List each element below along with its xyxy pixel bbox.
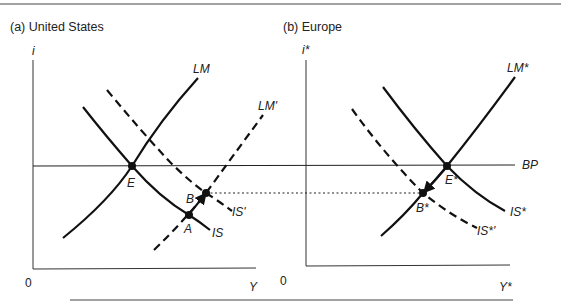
is-label: IS — [212, 227, 223, 239]
point-b — [202, 189, 210, 197]
origin-label-a: 0 — [25, 277, 32, 289]
lm-prime-label: LM' — [258, 100, 277, 112]
bp-line — [33, 165, 515, 166]
point-b-star — [419, 189, 427, 197]
is-prime-curve — [107, 90, 232, 211]
panel-b-title: (b) Europe — [283, 20, 342, 34]
origin-label-b: 0 — [280, 275, 287, 287]
point-e — [128, 162, 136, 170]
x-axis-label-a: Y — [249, 281, 257, 293]
is-lm-bp-figure: (a) United States (b) Europe i 0 Y LM LM… — [0, 0, 561, 305]
point-a — [185, 211, 193, 219]
point-a-label: A — [184, 223, 192, 235]
lm-star-label: LM* — [507, 62, 528, 74]
lm-star-curve — [381, 77, 515, 236]
panel-a-title: (a) United States — [10, 20, 104, 34]
lm-curve — [63, 78, 198, 238]
arrow-estar-to-bstar — [427, 169, 445, 189]
is-prime-label: IS' — [232, 206, 246, 218]
bp-label: BP — [522, 159, 538, 171]
point-b-label: B — [186, 193, 194, 205]
point-e-star — [443, 162, 451, 170]
point-e-label: E — [127, 177, 135, 189]
x-axis-label-b: Y* — [499, 281, 512, 293]
y-axis-label-b: i* — [302, 44, 309, 56]
diagram-canvas — [0, 0, 561, 305]
point-b-star-label: B* — [416, 202, 429, 214]
point-e-star-label: E* — [445, 174, 458, 186]
lm-label: LM — [193, 63, 210, 75]
is-star-prime-label: IS*' — [477, 225, 495, 237]
y-axis-label-a: i — [32, 45, 35, 57]
is-star-label: IS* — [510, 206, 526, 218]
is-star-curve — [383, 87, 505, 211]
